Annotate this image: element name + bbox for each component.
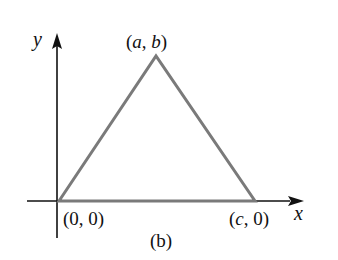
apex-label: (a, b) bbox=[126, 31, 167, 53]
triangle-diagram: y x (a, b) (0, 0) (c, 0) (b) bbox=[0, 0, 338, 260]
figure-caption: (b) bbox=[150, 230, 172, 252]
origin-label: (0, 0) bbox=[63, 208, 104, 230]
x-axis-label: x bbox=[293, 202, 303, 224]
y-axis-label: y bbox=[31, 28, 42, 51]
right-vertex-label: (c, 0) bbox=[229, 208, 269, 230]
triangle-shape bbox=[59, 56, 255, 201]
